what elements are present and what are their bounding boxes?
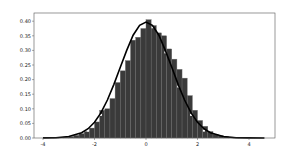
y-tick-label: 0.35 [20, 33, 31, 39]
y-tick-label: 0.15 [20, 91, 31, 97]
histogram-bar [120, 71, 125, 138]
histogram-bar [110, 99, 115, 138]
histogram-bar [74, 135, 79, 138]
y-tick-label: 0.10 [20, 106, 31, 112]
x-tick-label: -4 [41, 141, 46, 147]
histogram-bar [141, 29, 146, 139]
histogram-bar [156, 33, 161, 138]
histogram-chart: 0.000.050.100.150.200.250.300.350.40 -4-… [0, 0, 289, 155]
histogram-bar [105, 109, 110, 138]
histogram-bar [187, 96, 192, 138]
x-tick-label: -2 [92, 141, 97, 147]
histogram-bar [79, 134, 84, 138]
histogram-bar [84, 132, 89, 138]
x-tick-label: 0 [144, 141, 147, 147]
histogram-bar [115, 83, 120, 138]
y-tick-label: 0.30 [20, 47, 31, 53]
y-tick-label: 0.20 [20, 76, 31, 82]
y-tick-label: 0.25 [20, 62, 31, 68]
histogram-bar [192, 110, 197, 138]
y-tick-label: 0.00 [20, 135, 31, 141]
histogram-bar [95, 122, 100, 138]
histogram-bar [131, 40, 136, 138]
histogram-bar [182, 78, 187, 138]
histogram-bar [136, 37, 141, 138]
histogram-bar [151, 26, 156, 138]
x-tick-label: 2 [196, 141, 199, 147]
y-tick-label: 0.05 [20, 120, 31, 126]
histogram-bar [125, 61, 130, 138]
histogram-bar [89, 128, 94, 138]
histogram-bar [177, 69, 182, 138]
x-tick-label: 4 [247, 141, 250, 147]
histogram-bar [146, 20, 151, 138]
y-tick-label: 0.40 [20, 18, 31, 24]
